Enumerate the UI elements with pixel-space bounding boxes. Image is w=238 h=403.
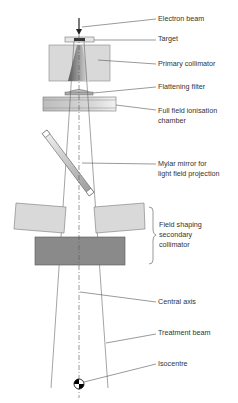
primary-collimator [49, 45, 110, 81]
label-secondary-collimator-line3: collimator [159, 240, 190, 250]
label-mylar-mirror-line2: light field projection [158, 169, 220, 179]
electron-beam-arrow [76, 18, 82, 35]
secondary-collimator-upper-jaws [14, 203, 145, 233]
label-electron-beam: Electron beam [158, 14, 204, 24]
label-central-axis: Central axis [158, 297, 196, 307]
label-ionisation-chamber-line1: Full field ionisation [158, 106, 217, 116]
label-mylar-mirror-line1: Mylar mirror for [158, 159, 207, 169]
ionisation-chamber [43, 97, 116, 111]
label-isocentre: Isocentre [158, 359, 188, 369]
label-primary-collimator: Primary collimator [158, 59, 216, 69]
secondary-collimator-lower-jaws [35, 237, 125, 265]
label-treatment-beam: Treatment beam [158, 328, 210, 338]
label-target: Target [158, 34, 178, 44]
isocentre-icon [74, 379, 84, 389]
secondary-collimator-bracket [149, 207, 156, 264]
label-ionisation-chamber-line2: chamber [158, 116, 186, 126]
label-secondary-collimator-line2: secondary [159, 230, 192, 240]
label-secondary-collimator-line1: Field shaping [159, 220, 202, 230]
label-flattening-filter: Flattening filter [158, 82, 205, 92]
target [65, 37, 94, 42]
